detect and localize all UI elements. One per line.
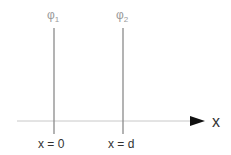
potential-1-label: φ1 bbox=[47, 8, 60, 24]
potential-2-label: φ2 bbox=[116, 8, 129, 24]
diagram-canvas: x φ1 x = 0 φ2 x = d bbox=[0, 0, 231, 155]
position-label-1: x = 0 bbox=[38, 137, 65, 151]
x-axis-label: x bbox=[212, 113, 220, 130]
x-axis-arrowhead-icon bbox=[190, 116, 205, 126]
position-label-2: x = d bbox=[108, 137, 134, 151]
